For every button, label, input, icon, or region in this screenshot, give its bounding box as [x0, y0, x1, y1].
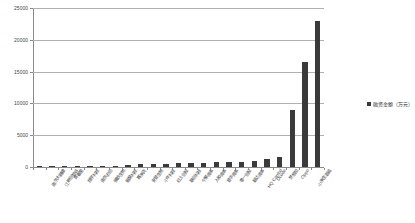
x-axis-tick-label: 人和资本	[214, 168, 227, 184]
x-axis-tick	[197, 168, 198, 170]
x-axis-tick	[273, 168, 274, 170]
bar	[264, 159, 269, 167]
y-axis-tick-label: 20000	[14, 37, 28, 42]
y-axis-tick-label: 15000	[14, 69, 28, 74]
x-axis-tick	[160, 168, 161, 170]
x-axis-tick-label: 安普生物	[150, 168, 163, 184]
x-axis-tick	[109, 168, 110, 170]
x-axis-tick-label: 南京云创	[100, 168, 113, 184]
y-axis: 0500010000150002000025000	[0, 0, 31, 175]
x-axis-tick-label: 红土创投	[176, 168, 189, 184]
x-axis-tick	[84, 168, 85, 170]
bar	[302, 62, 307, 167]
x-axis-tick	[172, 168, 173, 170]
bar-chart: 0500010000150002000025000 南京大健康江畔创智谷青春里翔…	[0, 0, 415, 223]
x-axis-tick	[210, 168, 211, 170]
x-axis-tick-label: 梦想加	[288, 168, 299, 181]
x-axis-tick-label: 普华资本	[226, 168, 239, 184]
bar	[277, 157, 282, 167]
x-axis: 南京大健康江畔创智谷青春里翔宇科技南京云创微致生物融慧科技赛米克安普生物小牛科技…	[33, 168, 324, 223]
bar	[290, 110, 295, 167]
x-axis-tick-label: 联创科技	[188, 168, 201, 184]
x-axis-tick	[33, 168, 34, 170]
y-axis-tick-label: 10000	[14, 101, 28, 106]
x-axis-tick-label: 宁聚资本	[201, 168, 214, 184]
x-axis-tick	[223, 168, 224, 170]
legend: 融资金额（万元）	[367, 101, 413, 107]
bar	[315, 21, 320, 167]
x-axis-tick	[134, 168, 135, 170]
x-axis-tick	[46, 168, 47, 170]
y-axis-tick-label: 25000	[14, 6, 28, 11]
x-axis-tick-label: 微致生物	[112, 168, 125, 184]
x-axis-tick-label: 小米生态链	[317, 168, 333, 187]
x-axis-tick	[248, 168, 249, 170]
x-axis-tick-label: 小牛科技	[163, 168, 176, 184]
x-axis-tick	[311, 168, 312, 170]
legend-label: 融资金额（万元）	[373, 101, 413, 107]
x-axis-tick	[147, 168, 148, 170]
legend-swatch-icon	[367, 102, 371, 106]
x-axis-tick	[96, 168, 97, 170]
x-axis-tick	[235, 168, 236, 170]
y-axis-tick-label: 0	[25, 165, 28, 170]
x-axis-tick-label: 毅达资本	[252, 168, 265, 184]
bars-container	[33, 8, 324, 167]
x-axis-tick	[122, 168, 123, 170]
x-axis-tick	[261, 168, 262, 170]
y-axis-tick-label: 5000	[17, 133, 28, 138]
x-axis-tick	[71, 168, 72, 170]
x-axis-tick-label: 零一创投	[239, 168, 252, 184]
x-axis-tick	[58, 168, 59, 170]
x-axis-tick	[324, 168, 325, 170]
x-axis-tick	[185, 168, 186, 170]
x-axis-tick	[299, 168, 300, 170]
x-axis-tick	[286, 168, 287, 170]
x-axis-tick-label: Oppo	[300, 168, 310, 180]
x-axis-tick-label: 翔宇科技	[87, 168, 100, 184]
